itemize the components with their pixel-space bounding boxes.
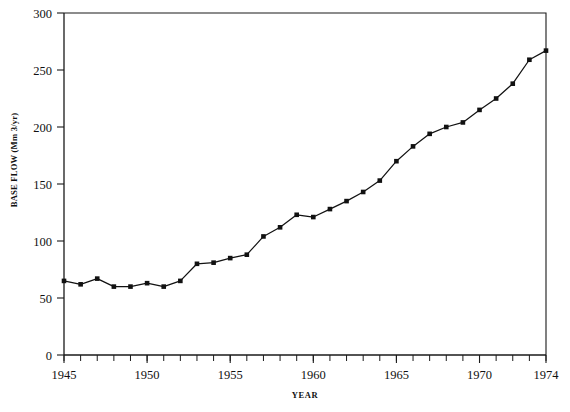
x-tick-label: 1945	[52, 368, 77, 382]
data-point	[112, 284, 117, 289]
y-tick-label: 0	[46, 349, 52, 363]
data-point	[461, 120, 466, 125]
data-point	[178, 279, 183, 284]
data-point	[328, 207, 333, 212]
data-point	[145, 281, 150, 286]
data-point	[361, 190, 366, 195]
x-tick-label: 1970	[467, 368, 492, 382]
data-point	[62, 279, 67, 284]
data-point	[161, 284, 166, 289]
x-tick-label: 1965	[384, 368, 409, 382]
data-point	[544, 48, 549, 53]
data-point	[427, 132, 432, 137]
data-point	[95, 276, 100, 281]
data-point	[294, 212, 299, 217]
x-tick-label: 1960	[301, 368, 326, 382]
data-point	[494, 96, 499, 101]
y-tick-label: 250	[33, 64, 52, 78]
data-point	[78, 282, 83, 287]
data-point	[228, 256, 233, 261]
chart-background	[0, 0, 570, 412]
y-tick-label: 150	[33, 178, 52, 192]
data-point	[278, 225, 283, 230]
data-point	[510, 81, 515, 86]
data-point	[211, 260, 216, 265]
data-point	[377, 178, 382, 183]
x-tick-label: 1955	[218, 368, 243, 382]
data-point	[245, 252, 250, 257]
data-point	[527, 57, 532, 62]
y-axis-title: BASE FLOW (Mm 3/yr)	[9, 113, 19, 208]
y-tick-label: 100	[33, 235, 52, 249]
base-flow-chart: 050100150200250300 194519501955196019651…	[0, 0, 570, 412]
data-point	[261, 234, 266, 239]
data-point	[344, 199, 349, 204]
y-tick-label: 300	[33, 7, 52, 21]
x-axis-title: YEAR	[292, 390, 319, 400]
x-tick-label: 1974	[534, 368, 560, 382]
x-tick-label: 1950	[135, 368, 160, 382]
data-point	[128, 284, 133, 289]
chart-canvas: 050100150200250300 194519501955196019651…	[0, 0, 570, 412]
data-point	[311, 215, 316, 220]
data-point	[411, 144, 416, 149]
y-tick-label: 200	[33, 121, 52, 135]
y-tick-label: 50	[40, 292, 53, 306]
data-point	[394, 159, 399, 164]
data-point	[444, 125, 449, 130]
data-point	[477, 108, 482, 113]
data-point	[195, 262, 200, 267]
